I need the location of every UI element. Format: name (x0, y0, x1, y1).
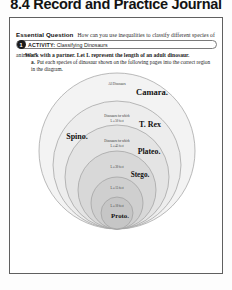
ring-note-6: L ≤ 10 feet (110, 204, 123, 208)
species-label-spino: Spino. (66, 132, 88, 141)
journal-page: 8.4 Record and Practice Journal Essentia… (0, 0, 232, 290)
ring-note-2-line2: L ≤ 50 feet (110, 119, 123, 123)
ring-note-5: L ≤ 15 feet (110, 186, 123, 190)
ring-note-3-line2: L ≤ 45 feet (110, 144, 123, 148)
worksheet-sheet: Essential Question How can you use inequ… (9, 17, 223, 274)
ring-note-1: All Dinosaurs (108, 82, 126, 86)
activity-number-badge: 1 (17, 40, 26, 49)
essential-question-label: Essential Question (16, 31, 74, 38)
ring-note-2-line1: Dinosaurs for which (104, 114, 130, 118)
species-label-proto: Proto. (111, 212, 129, 219)
page-title: 8.4 Record and Practice Journal (0, 0, 232, 12)
ring-note-4: L ≤ 30 feet (110, 165, 123, 169)
activity-heading: ACTIVITY: Classifying Dinosaurs (28, 42, 108, 48)
activity-label: ACTIVITY: (28, 42, 55, 48)
dinosaur-classification-diagram: All Dinosaurs Dinosaurs for which L ≤ 50… (36, 69, 198, 241)
activity-banner: 1 ACTIVITY: Classifying Dinosaurs (16, 40, 217, 49)
activity-title: Classifying Dinosaurs (57, 42, 108, 48)
species-label-plateo: Plateo. (138, 147, 161, 156)
species-label-trex: T. Rex (139, 120, 161, 129)
ring-note-3-line1: Dinosaurs for which (104, 139, 130, 143)
species-label-stego: Stego. (131, 171, 150, 179)
part-a-label: a. (31, 59, 35, 65)
species-label-camara: Camara. (136, 87, 168, 97)
work-with-partner-text: Work with a partner. Let L represent the… (25, 52, 189, 58)
